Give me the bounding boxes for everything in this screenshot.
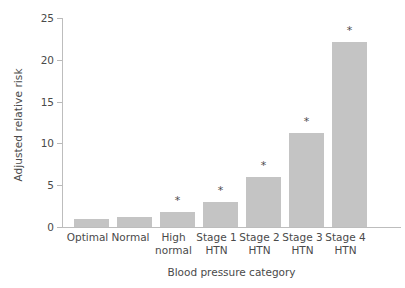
x-tick-label: Optimal bbox=[64, 231, 111, 244]
bar-slot: * bbox=[328, 18, 371, 227]
x-tick-label: Stage 1HTN bbox=[193, 231, 240, 256]
x-tick-label: Highnormal bbox=[150, 231, 197, 256]
y-tick-mark bbox=[57, 185, 62, 186]
bar-slot bbox=[113, 18, 156, 227]
x-tick-label-line: Normal bbox=[107, 231, 154, 244]
y-axis-tick-labels: 0510152025 bbox=[32, 0, 54, 288]
x-tick-label-line: Stage 2 bbox=[236, 231, 283, 244]
significance-asterisk: * bbox=[203, 185, 238, 196]
significance-asterisk: * bbox=[332, 25, 367, 36]
x-tick-label-line: HTN bbox=[193, 244, 240, 257]
plot-area: ***** bbox=[62, 18, 401, 227]
bar bbox=[332, 42, 367, 227]
x-tick-label-line: HTN bbox=[236, 244, 283, 257]
bar-slot: * bbox=[199, 18, 242, 227]
bar-slot: * bbox=[285, 18, 328, 227]
x-axis-title: Blood pressure category bbox=[62, 266, 401, 278]
bar-slot bbox=[70, 18, 113, 227]
bar bbox=[246, 177, 281, 227]
x-tick-label-line: Stage 1 bbox=[193, 231, 240, 244]
y-tick-label: 0 bbox=[32, 222, 54, 233]
significance-asterisk: * bbox=[246, 160, 281, 171]
bar-slot: * bbox=[242, 18, 285, 227]
x-tick-label: Stage 2HTN bbox=[236, 231, 283, 256]
bar-slot: * bbox=[156, 18, 199, 227]
significance-asterisk: * bbox=[289, 116, 324, 127]
bar-chart-figure: Adjusted relative risk 0510152025 ***** … bbox=[0, 0, 405, 288]
bar bbox=[160, 212, 195, 227]
y-axis-title: Adjusted relative risk bbox=[12, 10, 34, 240]
x-axis-tick-labels: OptimalNormalHighnormalStage 1HTNStage 2… bbox=[62, 231, 401, 265]
x-tick-label-line: Stage 4 bbox=[322, 231, 369, 244]
y-tick-label: 20 bbox=[32, 55, 54, 66]
y-tick-mark bbox=[57, 102, 62, 103]
y-tick-label: 25 bbox=[32, 13, 54, 24]
bar bbox=[117, 217, 152, 227]
x-tick-label-line: Stage 3 bbox=[279, 231, 326, 244]
x-tick-label: Stage 4HTN bbox=[322, 231, 369, 256]
y-tick-label: 10 bbox=[32, 138, 54, 149]
x-tick-label-line: HTN bbox=[279, 244, 326, 257]
y-tick-mark bbox=[57, 60, 62, 61]
bar bbox=[74, 219, 109, 227]
y-tick-mark bbox=[57, 227, 62, 228]
x-axis-line bbox=[62, 227, 401, 228]
x-tick-label: Stage 3HTN bbox=[279, 231, 326, 256]
y-tick-label: 5 bbox=[32, 180, 54, 191]
significance-asterisk: * bbox=[160, 195, 195, 206]
y-tick-mark bbox=[57, 143, 62, 144]
x-tick-label-line: normal bbox=[150, 244, 197, 257]
x-tick-label-line: HTN bbox=[322, 244, 369, 257]
y-tick-label: 15 bbox=[32, 96, 54, 107]
x-tick-label-line: Optimal bbox=[64, 231, 111, 244]
x-tick-label: Normal bbox=[107, 231, 154, 244]
bar bbox=[203, 202, 238, 227]
x-tick-label-line: High bbox=[150, 231, 197, 244]
bar bbox=[289, 133, 324, 227]
y-tick-mark bbox=[57, 18, 62, 19]
